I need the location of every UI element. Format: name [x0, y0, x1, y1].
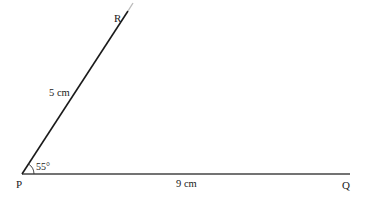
length-label-pr: 5 cm — [49, 87, 70, 98]
segment-pr — [22, 11, 128, 174]
segment-pr-extension — [128, 3, 133, 11]
point-label-p: P — [16, 178, 22, 190]
point-label-q: Q — [342, 179, 350, 191]
angle-arc — [29, 164, 35, 174]
geometry-diagram: 55° P Q R 5 cm 9 cm — [0, 0, 371, 197]
angle-label: 55° — [36, 161, 50, 172]
point-label-r: R — [114, 12, 122, 24]
length-label-pq: 9 cm — [176, 178, 197, 189]
